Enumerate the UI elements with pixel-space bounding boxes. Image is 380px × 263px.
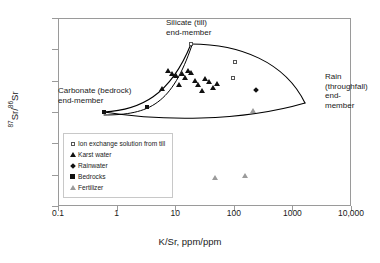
legend: Ion exchange solution from till Karst wa… bbox=[63, 133, 173, 198]
square-open-icon bbox=[67, 138, 78, 149]
legend-label: Fertilizer bbox=[78, 184, 103, 191]
mixing-envelope-curve bbox=[0, 0, 380, 263]
legend-item-bedrocks: Bedrocks bbox=[67, 171, 169, 182]
legend-item-ion-exchange: Ion exchange solution from till bbox=[67, 138, 169, 149]
legend-item-karst-water: Karst water bbox=[67, 149, 169, 160]
annotation-carbonate-endmember: Carbonate (bedrock) end-member bbox=[58, 86, 131, 105]
square-filled-icon bbox=[67, 171, 78, 182]
legend-item-rainwater: Rainwater bbox=[67, 160, 169, 171]
triangle-filled-icon bbox=[67, 149, 78, 160]
legend-item-fertilizer: Fertilizer bbox=[67, 182, 169, 193]
annotation-rain-endmember: Rain (throughfall) end- member bbox=[325, 72, 368, 110]
legend-label: Karst water bbox=[78, 151, 111, 158]
triangle-open-icon bbox=[67, 182, 78, 193]
strontium-isotope-mixing-plot: 0.702 0.704 0.706 0.708 0.710 0.712 0.71… bbox=[0, 0, 380, 263]
legend-label: Rainwater bbox=[78, 162, 108, 169]
annotation-silicate-endmember: Silicate (till) end-member bbox=[166, 18, 211, 37]
diamond-filled-icon bbox=[67, 160, 78, 171]
legend-label: Bedrocks bbox=[78, 173, 106, 180]
legend-label: Ion exchange solution from till bbox=[78, 140, 165, 147]
